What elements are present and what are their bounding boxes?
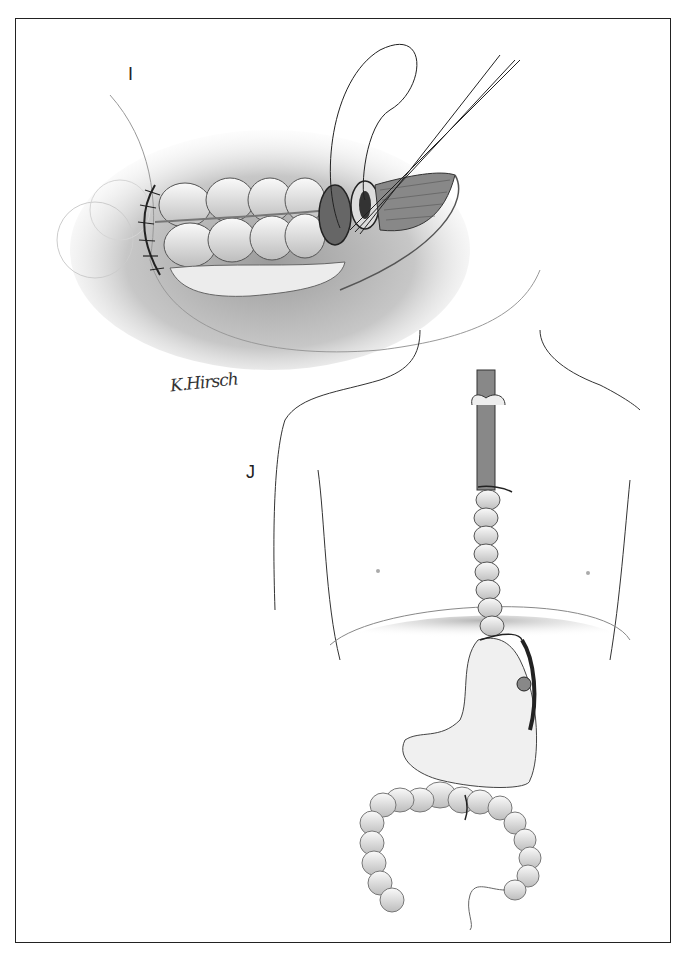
surgical-illustration	[0, 0, 694, 957]
panel-j-drawing	[274, 330, 640, 930]
panel-label-i: I	[128, 64, 133, 85]
panel-label-j: J	[246, 462, 255, 483]
panel-i-drawing	[57, 44, 540, 370]
